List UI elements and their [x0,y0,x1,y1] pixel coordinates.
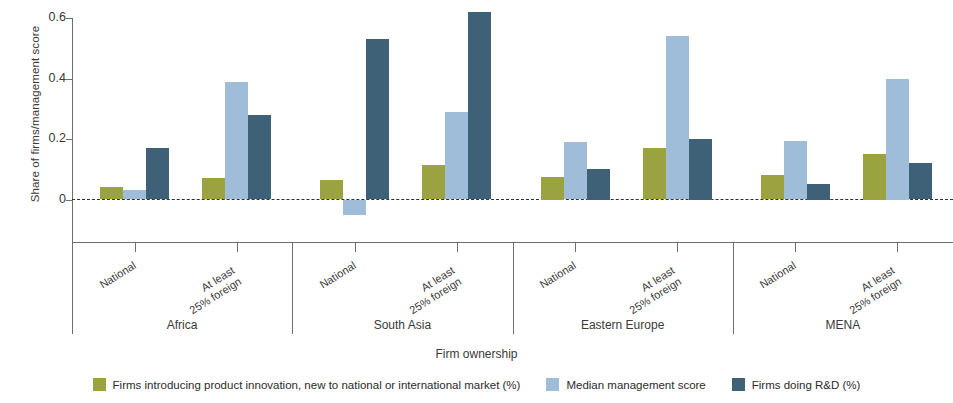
x-axis-category-label: National [707,259,799,323]
x-axis-sub-tick [795,243,796,252]
y-axis-tick-label: 0 [30,193,66,206]
bar [666,36,689,199]
bar [541,177,564,200]
chart-legend: Firms introducing product innovation, ne… [0,378,953,391]
x-axis-category-label-line: National [267,259,359,323]
legend-label: Firms introducing product innovation, ne… [113,379,521,391]
x-axis-sub-tick [575,243,576,252]
x-axis-category-label-line: National [487,259,579,323]
x-axis-category-label-line: National [707,259,799,323]
bar [225,82,248,200]
bar [587,169,610,199]
x-axis-group-label: South Asia [292,318,512,332]
x-axis-group-label: MENA [733,318,953,332]
x-axis-title: Firm ownership [0,347,953,361]
bar [784,141,807,200]
x-axis-sub-tick [355,243,356,252]
x-axis-category-label: National [267,259,359,323]
bar [886,79,909,200]
bar [909,163,932,199]
x-axis-sub-tick [897,243,898,252]
legend-item: Median management score [546,378,705,391]
plot-area [72,0,953,242]
bar [202,178,225,199]
bar [366,39,389,199]
y-axis-tick-label: 0.2 [30,132,66,145]
bar [564,142,587,199]
legend-item: Firms introducing product innovation, ne… [93,378,521,391]
x-axis-sub-tick [457,243,458,252]
bar [468,12,491,200]
bar [320,180,343,200]
bar [100,187,123,199]
x-axis-group-label: Eastern Europe [513,318,733,332]
legend-swatch-icon [93,378,106,391]
bar [689,139,712,200]
x-axis-sub-tick [135,243,136,252]
x-axis-category-label: National [487,259,579,323]
bar [445,112,468,200]
y-axis-tick-labels: 00.20.40.6 [22,0,66,403]
legend-swatch-icon [732,378,745,391]
x-axis-sub-tick [237,243,238,252]
y-axis-tick-label: 0.6 [30,11,66,24]
x-axis-sub-tick [677,243,678,252]
legend-label: Median management score [566,379,705,391]
bar [343,200,366,215]
bar [807,184,830,199]
bar [643,148,666,199]
legend-item: Firms doing R&D (%) [732,378,861,391]
legend-swatch-icon [546,378,559,391]
legend-label: Firms doing R&D (%) [752,379,861,391]
bar [248,115,271,200]
bar [123,190,146,199]
bar-chart-figure: Share of firms/management score 00.20.40… [0,0,953,403]
bar [146,148,169,199]
bar [422,165,445,200]
y-axis-tick-label: 0.4 [30,72,66,85]
x-axis-group-label: Africa [72,318,292,332]
bar [863,154,886,199]
bar [761,175,784,199]
